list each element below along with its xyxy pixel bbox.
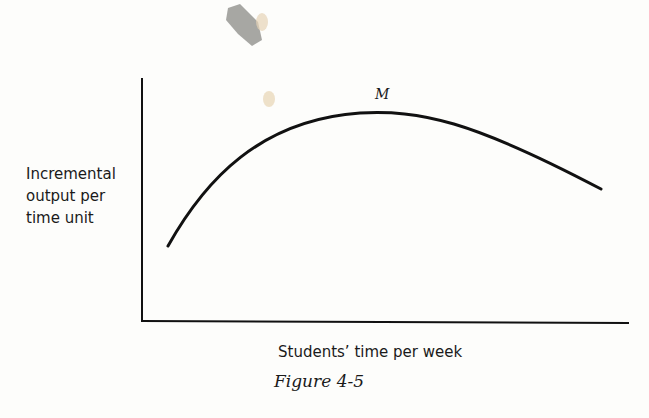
stain-marks: [226, 4, 275, 107]
figure-caption: Figure 4-5: [274, 371, 364, 391]
y-axis-label-line: output per: [26, 185, 116, 207]
output-curve: [168, 113, 601, 246]
x-axis: [141, 321, 629, 323]
y-axis-label-line: time unit: [26, 207, 116, 229]
peak-label: M: [375, 86, 389, 102]
y-axis-label: Incremental output per time unit: [26, 163, 116, 229]
x-axis-label: Students’ time per week: [278, 343, 462, 361]
y-axis-label-line: Incremental: [26, 163, 116, 185]
